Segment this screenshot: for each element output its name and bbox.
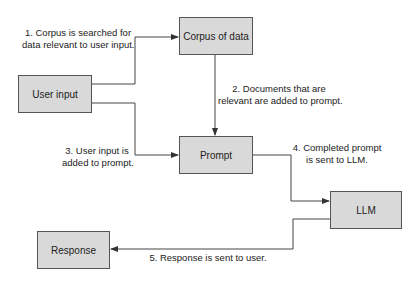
node-user-input: User input [18, 75, 92, 113]
step-1-line-2: data relevant to user input. [22, 39, 134, 51]
step-3-label: 3. User input is added to prompt. [62, 145, 132, 169]
node-prompt: Prompt [179, 136, 253, 174]
node-user-input-label: User input [32, 89, 78, 100]
step-3-line-2: added to prompt. [62, 157, 132, 169]
step-4-line-1: 4. Completed prompt [292, 142, 382, 154]
node-response-label: Response [51, 245, 96, 256]
node-corpus: Corpus of data [179, 17, 253, 55]
node-llm: LLM [330, 191, 402, 229]
arrow-llm-to-response [111, 219, 330, 249]
node-llm-label: LLM [356, 205, 375, 216]
node-corpus-label: Corpus of data [183, 31, 249, 42]
step-2-line-1: 2. Documents that are [218, 83, 340, 95]
step-1-label: 1. Corpus is searched for data relevant … [22, 27, 134, 51]
node-prompt-label: Prompt [200, 150, 232, 161]
step-4-line-2: is sent to LLM. [292, 154, 382, 166]
step-4-label: 4. Completed prompt is sent to LLM. [292, 142, 382, 166]
step-5-label: 5. Response is sent to user. [148, 252, 268, 264]
node-response: Response [37, 231, 110, 269]
step-1-line-1: 1. Corpus is searched for [22, 27, 134, 39]
step-3-line-1: 3. User input is [62, 145, 132, 157]
step-5-line-1: 5. Response is sent to user. [148, 252, 268, 264]
step-2-label: 2. Documents that are relevant are added… [218, 83, 340, 107]
step-2-line-2: relevant are added to prompt. [218, 95, 340, 107]
